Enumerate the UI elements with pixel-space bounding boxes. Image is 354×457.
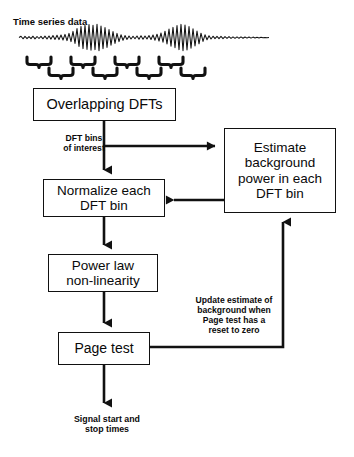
- output-signal-times-label: Signal start and stop times: [52, 414, 162, 435]
- time-series-data-label: Time series data: [13, 16, 87, 27]
- node-page-test[interactable]: Page test: [58, 332, 150, 365]
- node-overlapping-dfts[interactable]: Overlapping DFTs: [33, 88, 176, 121]
- diagram-canvas: Time series data Overlapping DFTs DFT bi…: [0, 0, 354, 457]
- bracket-row-bottom: [49, 68, 205, 79]
- time-series-waveform: [19, 24, 269, 51]
- diagram-connectors-layer: [0, 0, 354, 457]
- node-page-test-label: Page test: [71, 341, 136, 357]
- bracket-row-top: [27, 57, 183, 68]
- node-overlapping-dfts-label: Overlapping DFTs: [43, 96, 165, 112]
- edge-label-dft-bins-of-interest: DFT bins of interest: [48, 133, 120, 153]
- node-power-law-nonlinearity-label: Power law non-linearity: [63, 258, 143, 288]
- node-power-law-nonlinearity[interactable]: Power law non-linearity: [48, 254, 158, 292]
- node-estimate-background-power[interactable]: Estimate background power in each DFT bi…: [224, 128, 336, 213]
- node-normalize-dft-bin-label: Normalize each DFT bin: [54, 183, 154, 213]
- node-normalize-dft-bin[interactable]: Normalize each DFT bin: [43, 179, 165, 217]
- node-estimate-background-power-label: Estimate background power in each DFT bi…: [235, 140, 325, 200]
- edge-label-update-estimate: Update estimate of background when Page …: [182, 295, 286, 336]
- overlapping-window-brackets: [27, 57, 205, 79]
